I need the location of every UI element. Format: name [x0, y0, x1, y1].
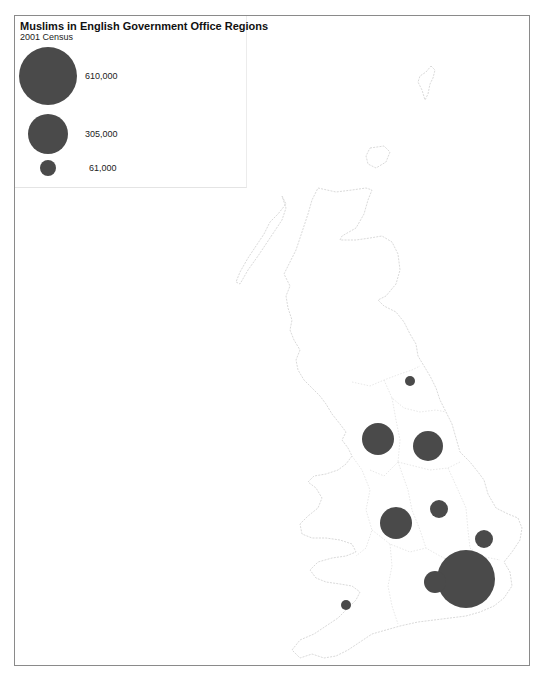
bubble-west-midlands — [380, 507, 412, 539]
bubble-yorkshire-humber — [413, 431, 443, 461]
south-west-boundary — [388, 544, 398, 624]
map-subtitle: 2001 Census — [20, 32, 73, 42]
wales-border — [352, 456, 372, 556]
yorkshire-boundary — [398, 462, 460, 470]
bubble-east-of-england — [475, 530, 493, 548]
south-boundary — [372, 530, 448, 560]
orkney-outline — [366, 146, 390, 168]
bubble-london — [437, 550, 495, 608]
bubble-north-west — [362, 423, 394, 455]
legend: Muslims in English Government Office Reg… — [15, 16, 247, 188]
bubble-south-west — [341, 600, 351, 610]
bubble-north-east — [405, 376, 415, 386]
bubble-south-east — [424, 571, 446, 593]
shetland-outline — [418, 66, 435, 100]
legend-label-small: 61,000 — [89, 163, 117, 173]
east-boundary — [448, 468, 500, 560]
legend-label-medium: 305,000 — [85, 129, 118, 139]
hebrides-outline — [236, 196, 286, 284]
north-east-boundary — [384, 380, 446, 412]
map-title: Muslims in English Government Office Reg… — [20, 20, 268, 32]
bubble-east-midlands — [430, 500, 448, 518]
legend-label-large: 610,000 — [85, 71, 118, 81]
north-west-boundary — [392, 398, 400, 462]
